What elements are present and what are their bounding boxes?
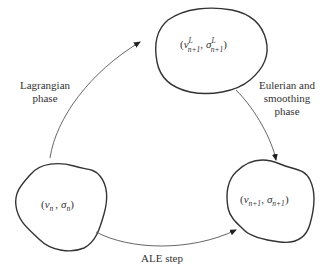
lagrangian-arrow — [50, 42, 140, 158]
eulerian-label-line3: phase — [274, 105, 299, 117]
ale-step-label: ALE step — [141, 252, 183, 264]
eulerian-label-line2: smoothing — [264, 92, 311, 104]
lagrangian-label-line2: phase — [32, 92, 57, 104]
lagrangian-label-line1: Lagrangian — [20, 79, 71, 91]
ale-step-arrow — [96, 230, 236, 246]
ale-cycle-diagram: (vLn+1,σLn+1) (vn,σn) (vn+1,σn+1) Lagran… — [0, 0, 326, 275]
eulerian-label-line1: Eulerian and — [259, 79, 315, 91]
